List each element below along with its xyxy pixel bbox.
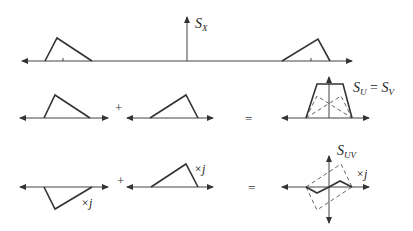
row2-right-triangle: [150, 95, 198, 118]
row3-right-triangle: [151, 164, 198, 187]
plus-sign: +: [115, 100, 122, 115]
row2-left-triangle: [44, 95, 90, 118]
sx-label: SX: [195, 16, 208, 33]
negative-frequency-triangle: [45, 38, 92, 61]
su-sv-label: SU = SV: [353, 80, 395, 97]
equals-sign: =: [245, 111, 252, 126]
times-j-label-result: ×j: [356, 167, 368, 181]
row2-su-sv-sum: + = SU = SV: [20, 77, 395, 126]
row3-suv-sum: ×j + ×j = SUV ×j: [20, 143, 369, 223]
plus-sign: +: [117, 173, 124, 188]
spectra-diagram: SX + = SU = SV ×j + ×j =: [0, 0, 413, 231]
row1-spectrum-x: SX: [22, 16, 352, 61]
equals-sign: =: [248, 180, 255, 195]
times-j-label-right: ×j: [194, 162, 206, 176]
times-j-label-left: ×j: [81, 196, 93, 210]
positive-frequency-triangle: [282, 39, 330, 61]
suv-label: SUV: [337, 143, 357, 160]
